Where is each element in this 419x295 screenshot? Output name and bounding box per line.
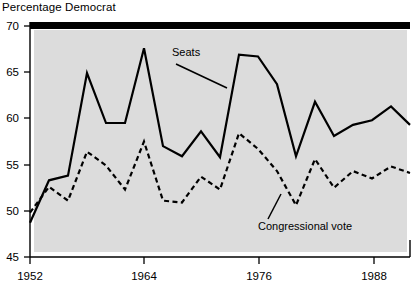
- x-tick-label-1952: 1952: [17, 270, 43, 282]
- x-tick-label-1988: 1988: [361, 270, 387, 282]
- chart-figure: Percentage Democrat 70 65 60 55: [0, 0, 419, 295]
- line-chart-plot: 70 65 60 55 50 45 1952 1964 1976 1988 Se: [0, 0, 419, 295]
- x-tick-label-1964: 1964: [131, 270, 157, 282]
- x-tick-label-1976: 1976: [246, 270, 272, 282]
- x-axis-tick-labels: 1952 1964 1976 1988: [17, 270, 387, 282]
- y-tick-label-60: 60: [6, 112, 19, 124]
- y-axis-tick-labels: 70 65 60 55 50 45: [6, 20, 19, 263]
- y-tick-label-45: 45: [6, 251, 19, 263]
- y-tick-label-50: 50: [6, 205, 19, 217]
- annotation-label-seats: Seats: [172, 46, 201, 58]
- x-axis-ticks: [30, 257, 374, 264]
- annotation-label-congressional-vote: Congressional vote: [258, 220, 352, 232]
- y-tick-label-70: 70: [6, 20, 19, 32]
- y-tick-label-65: 65: [6, 66, 19, 78]
- plot-background: [30, 22, 410, 257]
- y-tick-label-55: 55: [6, 159, 19, 171]
